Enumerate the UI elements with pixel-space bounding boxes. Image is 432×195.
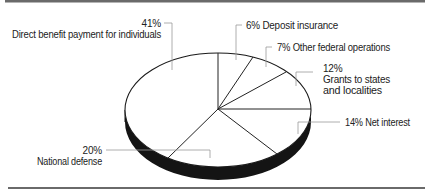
label-grants-pct: 12% [323, 63, 343, 74]
pie-chart: 41% Direct benefit payment for individua… [0, 0, 432, 195]
label-defense-pct: 20% [83, 145, 103, 156]
label-grants-line2: and localities [323, 85, 382, 96]
label-defense-text: National defense [37, 156, 103, 167]
label-grants-line1: Grants to states [323, 74, 390, 85]
label-individuals-pct: 41% [142, 18, 162, 29]
label-other: 7% Other federal operations [277, 42, 390, 53]
label-deposit: 6% Deposit insurance [246, 20, 339, 31]
label-interest: 14% Net interest [345, 117, 410, 128]
label-individuals-text: Direct benefit payment for individuals [12, 29, 161, 40]
